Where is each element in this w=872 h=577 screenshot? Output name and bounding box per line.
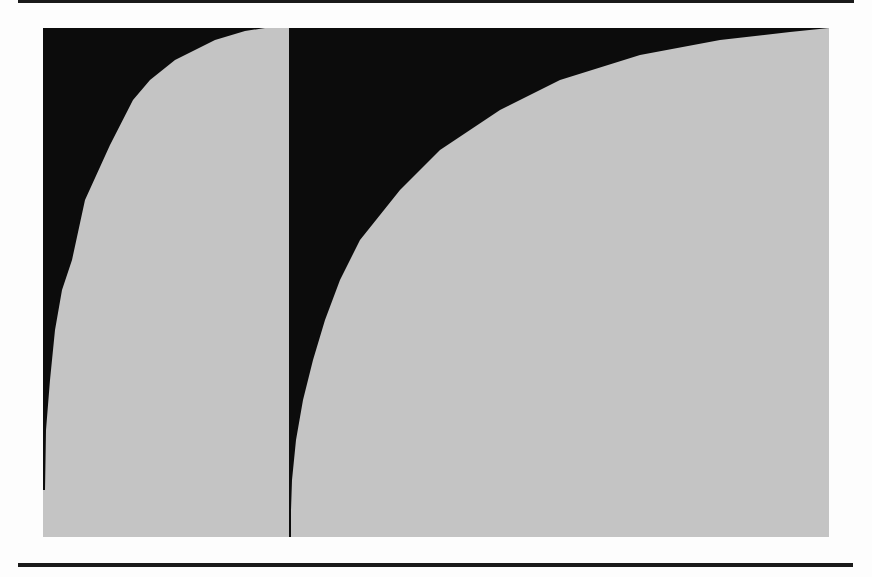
figure-page xyxy=(0,0,872,577)
two-panel-curve-figure xyxy=(0,0,872,577)
right-panel xyxy=(290,28,829,537)
left-panel xyxy=(43,28,289,537)
bottom-rule xyxy=(18,563,853,567)
